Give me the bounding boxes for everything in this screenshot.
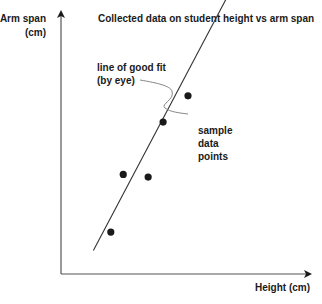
chart-title: Collected data on student height vs arm … [98, 13, 314, 24]
data-points [107, 0, 216, 236]
scatter-chart: Collected data on student height vs arm … [0, 0, 322, 304]
fit-line-annotation-line1: line of good fit [97, 62, 167, 73]
y-axis-label-line2: (cm) [25, 27, 46, 38]
fit-line-annotation-line2: (by eye) [97, 75, 135, 86]
data-point [120, 171, 127, 178]
data-point [107, 228, 114, 235]
y-axis-label-line1: Arm span [0, 13, 46, 24]
points-annotation-line3: points [198, 151, 228, 162]
points-annotation-line1: sample [198, 125, 233, 136]
data-point [145, 173, 152, 180]
data-point [184, 92, 191, 99]
data-point [159, 118, 166, 125]
x-axis-label: Height (cm) [255, 282, 310, 293]
points-annotation-line2: data [198, 138, 219, 149]
